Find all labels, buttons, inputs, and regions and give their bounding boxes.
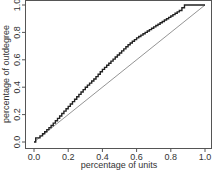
y-tick-label: 0.4 (12, 81, 22, 94)
x-tick-label: 0.2 (62, 152, 75, 162)
x-tick-label: 0.8 (165, 152, 178, 162)
equality-line (34, 5, 205, 142)
y-tick-label: 1.0 (12, 0, 22, 11)
x-axis-label: percentage of units (81, 160, 158, 170)
y-tick-label: 0.8 (12, 26, 22, 39)
y-tick-label: 0.2 (12, 108, 22, 121)
x-tick-label: 0.0 (28, 152, 41, 162)
y-tick-label: 0.0 (12, 136, 22, 149)
y-tick-label: 0.6 (12, 54, 22, 67)
lorenz-chart: 0.00.20.40.60.81.0 0.00.20.40.60.81.0 pe… (0, 0, 214, 170)
y-axis-label: percentage of outdegree (1, 25, 11, 123)
x-tick-label: 1.0 (199, 152, 212, 162)
y-axis: 0.00.20.40.60.81.0 (12, 0, 26, 148)
